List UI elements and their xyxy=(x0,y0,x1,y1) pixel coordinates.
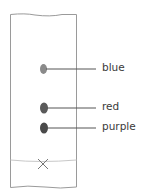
spot-purple xyxy=(40,123,48,134)
label-blue: blue xyxy=(102,62,125,73)
chromatography-diagram xyxy=(0,0,144,195)
spot-red xyxy=(40,103,48,114)
spot-blue xyxy=(40,64,47,74)
label-purple: purple xyxy=(102,121,136,132)
label-red: red xyxy=(102,101,119,112)
